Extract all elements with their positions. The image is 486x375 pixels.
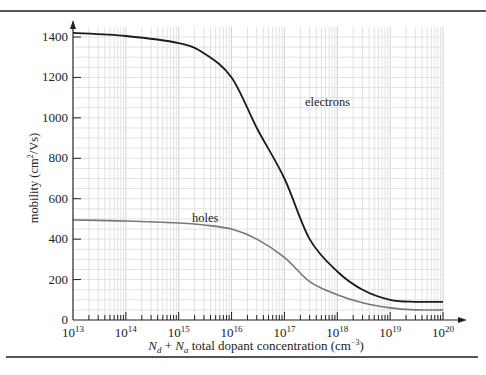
x-tick-label: 1013 [62,324,85,340]
x-tick-label: 1020 [432,324,455,340]
x-axis-arrow-icon [458,317,467,323]
x-tick-label: 1019 [379,324,402,340]
electrons-label: electrons [305,95,350,109]
y-tick-label: 1000 [42,110,68,125]
y-axis-arrow-icon [70,20,76,29]
grid [73,27,443,320]
mobility-chart: 0200400600800100012001400101310141015101… [0,0,486,375]
holes-label: holes [192,211,219,225]
y-tick-label: 400 [49,231,69,246]
x-axis-title: Nd + Na total dopant concentration (cm−3… [147,338,364,355]
x-tick-label: 1014 [115,324,138,340]
y-tick-label: 1200 [42,69,68,84]
y-tick-label: 800 [49,150,69,165]
y-tick-label: 600 [49,191,69,206]
y-axis-title: mobility (cm2/Vs) [26,133,41,223]
y-tick-label: 200 [49,272,69,287]
y-tick-label: 1400 [42,29,68,44]
tick-labels: 0200400600800100012001400101310141015101… [42,29,455,340]
